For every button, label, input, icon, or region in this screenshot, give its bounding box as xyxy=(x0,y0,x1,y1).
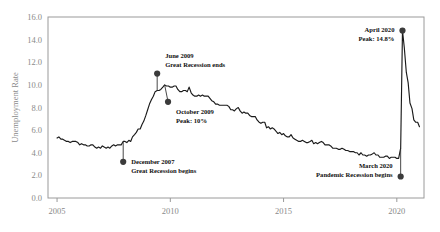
annotation-line-1: March 2020 xyxy=(359,162,393,169)
y-tick-label: 16.0 xyxy=(27,12,42,22)
annotation-line-1: April 2020 xyxy=(365,26,396,33)
x-tick-label: 2010 xyxy=(162,206,179,216)
annotation-marker-dot xyxy=(154,70,160,76)
x-tick-label: 2015 xyxy=(275,206,292,216)
x-tick-label: 2005 xyxy=(49,206,66,216)
x-tick-label: 2020 xyxy=(388,206,405,216)
y-tick-label: 6.0 xyxy=(31,125,42,135)
annotation-line-2: Peak: 14.8% xyxy=(359,35,395,42)
annotation-line-2: Peak: 10% xyxy=(176,117,207,124)
annotation-line-2: Great Recession ends xyxy=(165,61,225,68)
y-tick-label: 12.0 xyxy=(27,57,42,67)
y-axis-title: Unemployment Rate xyxy=(10,72,20,143)
annotation-line-2: Pandemic Recession begins xyxy=(316,171,393,178)
annotation-line-1: December 2007 xyxy=(131,158,175,165)
y-tick-label: 2.0 xyxy=(31,170,42,180)
y-tick-label: 8.0 xyxy=(31,103,42,113)
annotation-marker-dot xyxy=(399,27,405,33)
y-tick-label: 4.0 xyxy=(31,148,42,158)
unemployment-rate-line-chart: 0.02.04.06.08.010.012.014.016.0 20052010… xyxy=(0,0,440,232)
annotation-line-1: October 2009 xyxy=(176,108,214,115)
annotation-line-1: June 2009 xyxy=(165,52,194,59)
chart-figure: 0.02.04.06.08.010.012.014.016.0 20052010… xyxy=(0,0,440,232)
annotation-marker-dot xyxy=(165,99,171,105)
y-tick-label: 0.0 xyxy=(31,193,42,203)
y-axis-title-label: Unemployment Rate xyxy=(10,72,20,143)
annotation-marker-dot xyxy=(120,159,126,165)
annotation-marker-dot xyxy=(398,173,404,179)
annotation-line-2: Great Recession begins xyxy=(131,167,197,174)
y-tick-label: 14.0 xyxy=(27,35,42,45)
y-tick-label: 10.0 xyxy=(27,80,42,90)
